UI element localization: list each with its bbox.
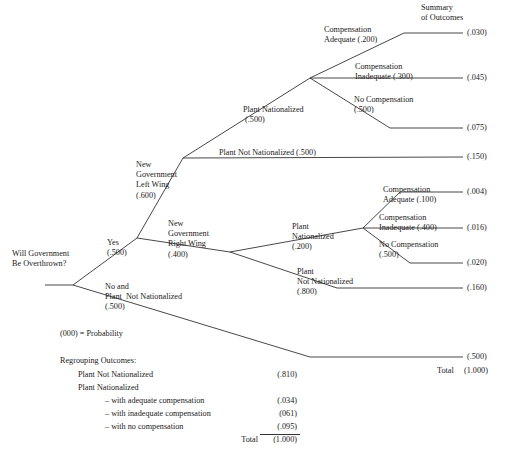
label-rw-no-comp-line1: No Compensation: [379, 240, 438, 249]
node-left-wing: New Government Left Wing (.600): [136, 160, 177, 201]
outcome-value-1: (.030): [467, 28, 487, 38]
node-rw-plant-nationalized-line1: Plant: [292, 222, 309, 231]
node-yes-label: Yes: [107, 238, 119, 247]
node-left-wing-prob: (.600): [136, 191, 156, 200]
regrouping-title: Regrouping Outcomes:: [60, 356, 136, 365]
root-question-line1: Will Government: [12, 249, 69, 258]
regrouping-row-value-1: (.810): [245, 370, 297, 379]
node-lw-plant-not-nationalized-label: Plant Not Nationalized (.500): [219, 148, 316, 157]
node-right-wing-line2: Government: [168, 229, 209, 238]
outcome-value-7: (.020): [467, 258, 487, 268]
node-lw-plant-nationalized-prob: (.500): [245, 115, 265, 124]
node-left-wing-line3: Left Wing: [136, 180, 169, 189]
node-left-wing-line2: Government: [136, 170, 177, 179]
outcome-value-6: (.016): [467, 223, 487, 233]
outcome-value-5: (.004): [467, 187, 487, 197]
node-rw-plant-nationalized: Plant Nationalized (.200): [292, 222, 334, 253]
outcome-value-8: (.160): [467, 283, 487, 293]
outcomes-total-label: Total: [437, 366, 454, 376]
outcome-value-3: (.075): [467, 123, 487, 133]
node-no-prob: (.500): [105, 302, 125, 311]
summary-header-line2: of Outcomes: [421, 13, 463, 22]
node-no-line1: No and: [105, 282, 129, 291]
label-rw-no-comp-line2: (.500): [379, 250, 399, 259]
regrouping-total-value: (1.000): [245, 435, 297, 444]
outcome-value-2: (.045): [467, 73, 487, 83]
label-lw-comp-adequate-line2: Adequate (.200): [324, 35, 377, 44]
regrouping-row-value-5: (.095): [245, 422, 297, 431]
label-lw-comp-adequate-line1: Compensation: [324, 25, 371, 34]
regrouping-row-value-4: (061): [245, 409, 297, 418]
node-rw-plant-nationalized-line2: Nationalized: [292, 232, 334, 241]
label-rw-comp-inadequate-line1: Compensation: [379, 213, 426, 222]
label-lw-comp-inadequate-line1: Compensation: [355, 62, 402, 71]
decision-tree-figure: Summary of Outcomes Will Government Be O…: [0, 0, 505, 453]
label-lw-comp-inadequate-line2: Inadequate (.300): [355, 72, 413, 81]
node-rw-plant-nationalized-prob: (.200): [292, 242, 312, 251]
regrouping-row-label-1: Plant Not Nationalized: [78, 370, 153, 379]
outcome-value-9: (.500): [467, 352, 487, 362]
label-rw-compensation-inadequate: Compensation Inadequate (.400): [379, 213, 437, 233]
node-no-line2: Plant Not Nationalized: [105, 292, 182, 301]
label-rw-comp-inadequate-line2: Inadequate (.400): [379, 223, 437, 232]
probability-legend: (000) = Probability: [60, 329, 123, 338]
regrouping-row-label-3: – with adequate compensation: [105, 396, 204, 405]
root-question-line2: Be Overthrown?: [12, 259, 66, 268]
outcome-value-4: (.150): [467, 152, 487, 162]
label-lw-no-comp-line2: (.500): [354, 105, 374, 114]
node-no-plant-not-nationalized: No and Plant Not Nationalized (.500): [105, 282, 182, 313]
branch-yes: [73, 238, 137, 285]
label-lw-compensation-inadequate: Compensation Inadequate (.300): [355, 62, 413, 82]
label-rw-compensation-adequate: Compensation Adequate (.100): [383, 185, 436, 205]
node-rw-plant-not-nationalized-line2: Not Nationalized: [297, 277, 353, 286]
label-rw-no-compensation: No Compensation (.500): [379, 240, 438, 260]
label-lw-compensation-adequate: Compensation Adequate (.200): [324, 25, 377, 45]
node-yes-prob: (.500): [107, 248, 127, 257]
node-rw-plant-not-nationalized-prob: (.800): [297, 287, 317, 296]
label-rw-comp-adequate-line1: Compensation: [383, 185, 430, 194]
label-lw-no-compensation: No Compensation (.500): [354, 95, 413, 115]
node-lw-plant-not-nationalized: Plant Not Nationalized (.500): [219, 148, 316, 158]
node-lw-plant-nationalized: Plant Nationalized (.500): [243, 105, 304, 125]
node-right-wing-prob: (.400): [168, 250, 188, 259]
node-rw-plant-not-nationalized-line1: Plant: [297, 267, 314, 276]
regrouping-row-label-5: – with no compensation: [105, 422, 183, 431]
root-question: Will Government Be Overthrown?: [12, 249, 69, 269]
node-right-wing-line3: Right Wing: [168, 239, 206, 248]
node-left-wing-line1: New: [136, 160, 151, 169]
node-right-wing-line1: New: [168, 219, 183, 228]
regrouping-row-label-4: – with inadequate compensation: [105, 409, 211, 418]
label-rw-comp-adequate-line2: Adequate (.100): [383, 195, 436, 204]
regrouping-row-value-3: (.034): [245, 396, 297, 405]
node-lw-plant-nationalized-label: Plant Nationalized: [243, 105, 304, 114]
regrouping-row-label-2: Plant Nationalized: [78, 383, 139, 392]
node-yes: Yes (.500): [107, 238, 127, 258]
label-lw-no-comp-line1: No Compensation: [354, 95, 413, 104]
summary-of-outcomes-header: Summary of Outcomes: [421, 3, 463, 24]
summary-header-line1: Summary: [421, 3, 453, 12]
node-rw-plant-not-nationalized: Plant Not Nationalized (.800): [297, 267, 353, 298]
outcomes-total-value: (1.000): [464, 366, 488, 376]
node-right-wing: New Government Right Wing (.400): [168, 219, 209, 260]
